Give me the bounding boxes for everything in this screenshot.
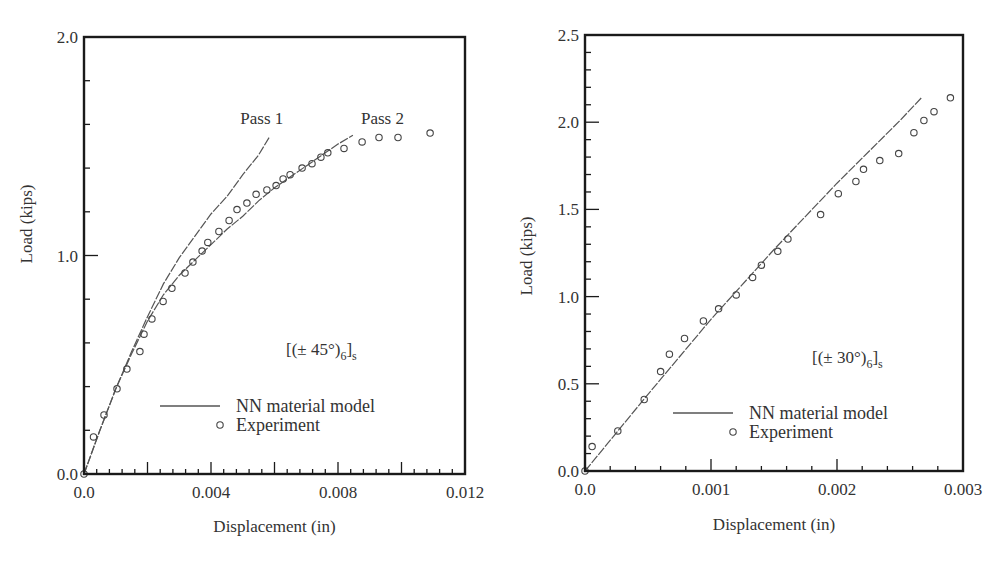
experiment-point: [700, 318, 706, 324]
y-tick-label: 0.5: [558, 375, 579, 394]
layup-prefix: [(± 30°): [812, 348, 866, 367]
experiment-point: [785, 236, 791, 242]
experiment-point: [681, 335, 687, 341]
experiment-point: [733, 292, 739, 298]
experiment-point: [911, 130, 917, 136]
x-axis-title: Displacement (in): [713, 515, 835, 534]
experiment-point: [666, 351, 672, 357]
x-tick-label: 0.001: [692, 480, 730, 499]
legend: NN material modelExperiment: [673, 403, 888, 442]
experiment-point: [817, 211, 823, 217]
experiment-point: [947, 95, 953, 101]
x-axis-ticks: [610, 459, 938, 471]
experiment-point: [921, 117, 927, 123]
experiment-point: [931, 109, 937, 115]
legend-label-experiment: Experiment: [749, 422, 833, 442]
experiment-point: [657, 368, 663, 374]
x-tick-label: 0.0: [574, 480, 595, 499]
y-axis-title: Load (kips): [517, 217, 536, 296]
legend-circle-swatch: [730, 429, 736, 435]
layup-sub-symmetric: s: [878, 357, 883, 371]
legend-label-nn: NN material model: [749, 403, 888, 423]
chart-right-pm30: 0.00.0010.0020.0030.00.51.01.52.02.5Disp…: [0, 0, 990, 563]
figure: 0.00.0040.0080.0120.01.02.0Displacement …: [0, 0, 990, 563]
experiment-point: [615, 428, 621, 434]
experiment-point: [835, 191, 841, 197]
layup-annotation: [(± 30°)6]s: [812, 348, 883, 371]
experiment-point: [749, 274, 755, 280]
experiment-point: [877, 157, 883, 163]
x-tick-label: 0.003: [944, 480, 982, 499]
x-tick-label: 0.002: [818, 480, 856, 499]
y-tick-label: 1.5: [558, 200, 579, 219]
experiment-point: [589, 443, 595, 449]
experiment-point: [853, 178, 859, 184]
y-tick-label: 1.0: [558, 288, 579, 307]
experiment-point: [896, 150, 902, 156]
experiment-point: [860, 166, 866, 172]
y-tick-label: 2.0: [558, 113, 579, 132]
y-tick-label: 2.5: [558, 26, 579, 45]
experiment-point: [775, 248, 781, 254]
y-tick-label: 0.0: [558, 462, 579, 481]
y-axis-ticks: [585, 52, 599, 453]
